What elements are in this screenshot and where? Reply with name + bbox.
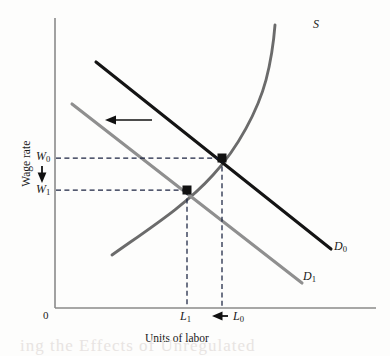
wage-w1-label: W1: [36, 183, 50, 197]
page-bleedthrough-artifact: ing the Effects of Unregulated: [20, 336, 256, 356]
supply-curve-label: S: [313, 18, 319, 30]
wage-decrease-arrow: [38, 166, 47, 183]
labor-market-supply-demand-figure: S D0 D1 W0 W1 L1 L0 0 Units of labor Wag…: [0, 0, 390, 356]
demand-shift-arrow: [105, 115, 152, 124]
origin-label: 0: [43, 310, 49, 321]
wage-w0-label: W0: [36, 150, 50, 164]
labor-l0-label: L0: [233, 310, 244, 324]
new-equilibrium-marker: [183, 186, 192, 195]
labor-l1-label: L1: [180, 310, 191, 324]
chart-plot-area: [0, 0, 390, 356]
demand0-curve-label: D0: [334, 240, 347, 254]
demand0-curve: [96, 62, 331, 249]
y-axis-title: Wage rate: [21, 119, 33, 209]
labor-decrease-arrow: [212, 312, 228, 321]
demand1-curve-label: D1: [303, 270, 316, 284]
initial-equilibrium-marker: [218, 154, 227, 163]
